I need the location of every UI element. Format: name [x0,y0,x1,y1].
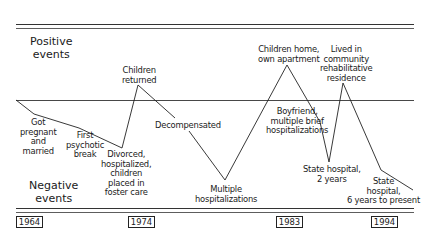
label-got-pregnant: Got pregnant and married [20,118,56,156]
label-children-home: Children home, own apartment [258,45,320,64]
label-lived-in-community: Lived in community rehabilitative reside… [320,45,372,83]
label-state-hospital-6: State hospital, 6 years to present [347,177,420,206]
label-children-returned: Children returned [122,66,156,85]
label-multiple-hospitalizations: Multiple hospitalizations [195,185,257,204]
year-1983: 1983 [276,216,303,228]
year-1964: 1964 [16,216,43,228]
label-decompensated: Decompensated [155,121,221,131]
label-boyfriend: Boyfriend, multiple brief hospitalizatio… [266,107,328,136]
label-first-break: First psychotic break [66,131,104,160]
negative-events-label: Negative events [29,180,78,205]
positive-events-label: Positive events [30,36,72,61]
label-divorced: Divorced, hospitalized, children placed … [101,150,151,198]
year-1974: 1974 [128,216,155,228]
year-1994: 1994 [371,216,398,228]
